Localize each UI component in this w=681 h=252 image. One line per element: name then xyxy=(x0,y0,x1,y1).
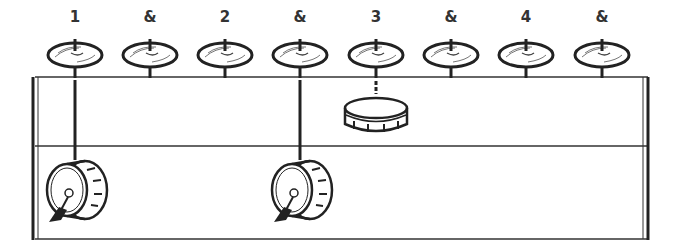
count-label: & xyxy=(293,8,306,26)
kick-row xyxy=(47,80,332,222)
staff-frame xyxy=(33,77,648,240)
bass-drum-icon xyxy=(47,161,107,222)
hihat-cymbal-icon xyxy=(575,39,629,78)
count-label: 3 xyxy=(371,8,381,26)
count-label: & xyxy=(595,8,608,26)
snare-drum-icon xyxy=(345,98,407,132)
count-label: 1 xyxy=(70,8,80,26)
hihat-row xyxy=(48,39,629,78)
drum-groove-diagram: 1&2&3&4& xyxy=(0,0,681,252)
count-labels: 1&2&3&4& xyxy=(70,8,609,26)
count-label: & xyxy=(444,8,457,26)
snare-row xyxy=(345,81,407,132)
bass-drum-icon xyxy=(272,161,332,222)
count-label: & xyxy=(143,8,156,26)
hihat-cymbal-icon xyxy=(198,39,252,78)
count-label: 4 xyxy=(521,8,531,26)
hihat-cymbal-icon xyxy=(499,39,553,78)
hihat-cymbal-icon xyxy=(123,39,177,78)
count-label: 2 xyxy=(220,8,230,26)
hihat-cymbal-icon xyxy=(349,39,403,78)
hihat-cymbal-icon xyxy=(424,39,478,78)
hihat-cymbal-icon xyxy=(48,39,102,78)
hihat-cymbal-icon xyxy=(273,39,327,78)
